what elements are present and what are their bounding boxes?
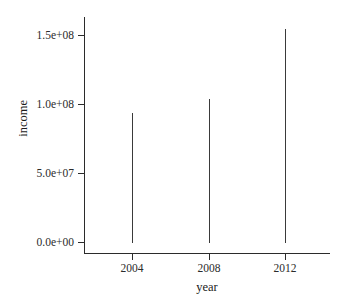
chart-container: 1.5e+08 1.0e+08 5.0e+07 0.0e+00 2004 200… (0, 0, 349, 303)
plot-area (0, 0, 349, 303)
range-segment-2004 (132, 113, 133, 243)
range-segment-2008 (209, 99, 210, 243)
range-segment-2012 (285, 29, 286, 243)
